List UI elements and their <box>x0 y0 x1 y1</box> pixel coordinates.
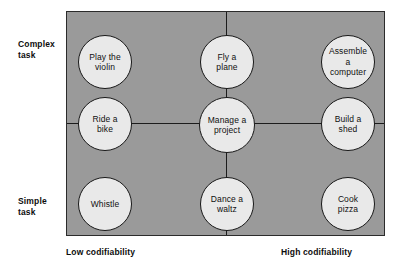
node-ride-a-bike[interactable]: Ride a bike <box>78 97 132 151</box>
node-label: Build a shed <box>332 114 365 135</box>
node-dance-a-waltz[interactable]: Dance a waltz <box>200 177 254 231</box>
node-build-a-shed[interactable]: Build a shed <box>321 97 375 151</box>
x-axis-left-label: Low codifiability <box>66 247 135 257</box>
x-axis-right-label: High codifiability <box>281 247 352 257</box>
node-label: Fly a plane <box>213 52 240 73</box>
node-fly-a-plane[interactable]: Fly a plane <box>200 35 254 89</box>
node-label: Manage a project <box>205 115 250 136</box>
y-axis-bottom-label: Simple task <box>18 196 47 218</box>
matrix-panel: Play the violin Fly a plane Assemble a c… <box>66 11 385 236</box>
node-label: Whistle <box>88 199 123 210</box>
node-label: Play the violin <box>86 52 124 73</box>
node-whistle[interactable]: Whistle <box>78 177 132 231</box>
node-play-the-violin[interactable]: Play the violin <box>78 35 132 89</box>
task-matrix-diagram: Complex task Simple task Play the violin… <box>0 0 405 276</box>
node-manage-a-project[interactable]: Manage a project <box>199 97 255 153</box>
y-axis-top-label: Complex task <box>18 39 55 61</box>
node-label: Dance a waltz <box>208 194 246 215</box>
node-assemble-a-computer[interactable]: Assemble a computer <box>321 35 375 89</box>
node-label: Ride a bike <box>89 114 120 135</box>
node-label: Assemble a computer <box>326 46 370 78</box>
node-cook-pizza[interactable]: Cook pizza <box>321 177 375 231</box>
node-label: Cook pizza <box>335 194 361 215</box>
